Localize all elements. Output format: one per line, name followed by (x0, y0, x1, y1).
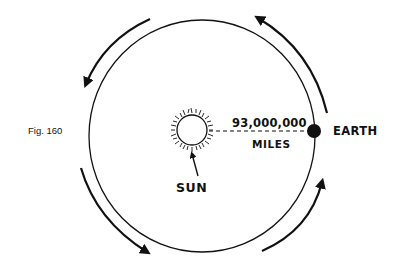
orbit-arrow-bottom-right (262, 182, 322, 251)
earth-icon (307, 124, 321, 138)
distance-unit-label: MILES (252, 138, 291, 150)
distance-value-label: 93,000,000 (232, 116, 307, 130)
orbit-arrow-bottom-left (81, 168, 147, 252)
earth-label: EARTH (333, 124, 378, 138)
orbit-arrow-top-left (86, 19, 150, 84)
sun-label: SUN (176, 180, 207, 195)
sun-pointer-arrow (192, 154, 198, 176)
sun-icon (171, 108, 213, 152)
figure-caption: Fig. 160 (28, 125, 62, 136)
